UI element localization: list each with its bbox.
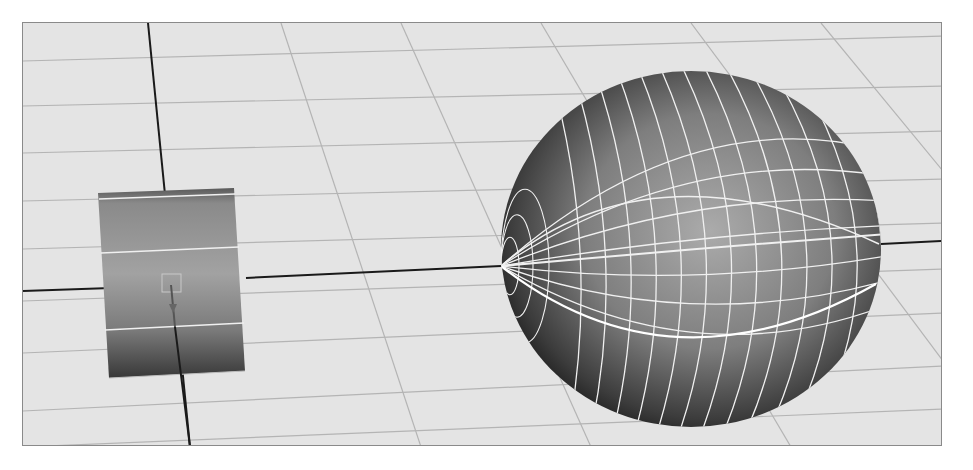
viewport-scene[interactable]	[23, 23, 942, 446]
modeling-canvas	[0, 0, 973, 470]
cylinder-surface[interactable]	[98, 188, 245, 378]
perspective-viewport[interactable]	[22, 22, 942, 446]
